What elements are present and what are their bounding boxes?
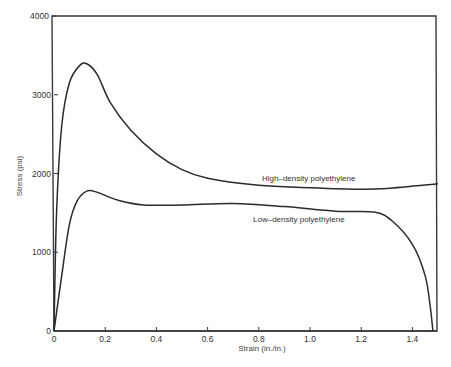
x-tick-label: 1.4: [406, 334, 418, 344]
x-axis-ticks: 00.20.40.60.81.01.21.4: [52, 327, 419, 344]
data-curves: [54, 63, 438, 331]
x-tick-label: 0.2: [99, 334, 111, 344]
y-tick-label: 0: [46, 326, 51, 336]
stress-strain-chart: 01000200030004000 00.20.40.60.81.01.21.4…: [0, 0, 451, 367]
low-density-curve: [54, 190, 433, 331]
x-tick-label: 1.0: [304, 334, 316, 344]
y-tick-label: 2000: [32, 169, 51, 179]
x-tick-label: 0.6: [202, 334, 214, 344]
high-density-curve: [54, 63, 438, 331]
x-tick-label: 1.2: [355, 334, 367, 344]
y-axis-title: Stress (psi): [15, 155, 24, 196]
x-tick-label: 0: [52, 334, 57, 344]
plot-frame: [52, 16, 437, 331]
y-tick-label: 1000: [32, 247, 51, 257]
y-tick-label: 3000: [32, 90, 51, 100]
x-axis-title: Strain (in./in.): [238, 344, 286, 353]
low-density-label: Low–density polyethylene: [253, 215, 345, 224]
x-tick-label: 0.4: [150, 334, 162, 344]
y-tick-label: 4000: [30, 11, 49, 21]
x-tick-label: 0.8: [253, 334, 265, 344]
high-density-label: High–density polyethylene: [262, 174, 356, 183]
